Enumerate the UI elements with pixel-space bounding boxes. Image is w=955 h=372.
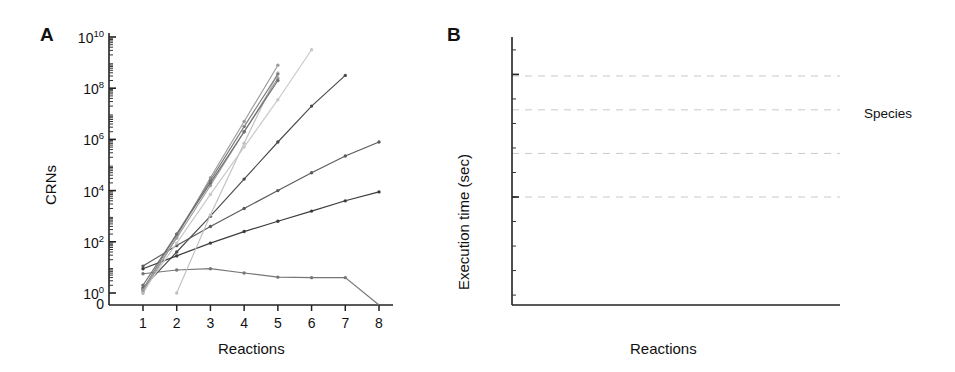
legend: Species — [862, 106, 912, 124]
figure-root: A CRNs Reactions 01001021041061081010123… — [0, 0, 955, 372]
legend-title: Species — [862, 106, 912, 121]
panel-b-plot — [0, 0, 955, 372]
